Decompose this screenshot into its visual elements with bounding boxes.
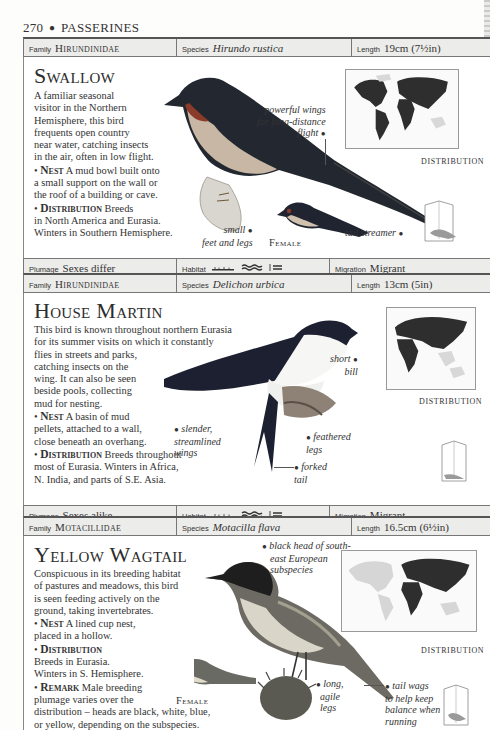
leader-line xyxy=(274,467,294,468)
book-reference-icon xyxy=(442,683,470,727)
distribution-map xyxy=(341,550,477,632)
running-head: 270 ● PASSERINES xyxy=(23,20,139,36)
wetland-icon xyxy=(242,265,262,270)
habitat-icons xyxy=(210,262,290,272)
family-label: Family xyxy=(29,281,51,290)
species-entry-yellow-wagtail: Family Motacillidae Species Motacilla fl… xyxy=(23,516,490,730)
text-line: ● black head of south- xyxy=(262,540,351,553)
family-cell: Family Hirundinidae xyxy=(24,275,177,292)
entry-body: House Martin This bird is known througho… xyxy=(23,293,490,505)
text-line: for long-distance xyxy=(257,116,326,128)
species-value: Motacilla flava xyxy=(213,521,281,533)
callout-wings: ● slender, streamlined wings xyxy=(174,423,221,459)
species-entry-swallow: Family Hirundinidae Species Hirundo rust… xyxy=(23,37,490,278)
text-line: tail wags xyxy=(392,680,428,691)
taxonomy-bar: Family Motacillidae Species Motacilla fl… xyxy=(23,516,490,536)
length-cell: Length 16.5cm (6½in) xyxy=(352,518,490,535)
species-value: Delichon urbica xyxy=(213,278,285,290)
length-value: 19cm (7½in) xyxy=(384,42,441,54)
text-line: Breeds xyxy=(105,203,134,214)
family-cell: Family Hirundinidae xyxy=(24,39,177,56)
text-line: running xyxy=(385,716,440,728)
common-name: House Martin xyxy=(34,298,163,324)
text-line: wings xyxy=(174,447,221,459)
callout-feet: small ● feet and legs xyxy=(202,224,253,248)
common-name: Yellow Wagtail xyxy=(34,542,187,568)
text-line: agile xyxy=(316,691,344,703)
callout-legs: ● feathered legs xyxy=(306,431,351,455)
text-line: ● forked xyxy=(294,461,327,474)
family-value: Hirundinidae xyxy=(55,42,119,54)
text-line: A lined cup nest, xyxy=(66,618,136,629)
callout-tail: tail streamer ● xyxy=(345,227,403,240)
callout-head: ● black head of south- east European sub… xyxy=(262,540,351,576)
text-line: ● feathered xyxy=(306,431,351,444)
species-label: Species xyxy=(182,524,209,533)
female-label: Female xyxy=(176,695,208,706)
text-line: feathered xyxy=(313,431,350,442)
family-value: Motacillidae xyxy=(55,521,121,533)
callout-tail: ● tail wags to help keep balance when ru… xyxy=(385,680,440,727)
callout-legs: ● long, agile legs xyxy=(316,678,344,714)
taxonomy-bar: Family Hirundinidae Species Hirundo rust… xyxy=(23,37,490,57)
distribution-heading: Distribution xyxy=(40,448,102,460)
book-reference-icon xyxy=(440,439,468,483)
nest-heading: Nest xyxy=(40,164,63,176)
text-line: powerful wings xyxy=(257,104,326,116)
callout-tail: ● forked tail xyxy=(294,461,327,485)
distribution-label: DISTRIBUTION xyxy=(419,397,482,406)
length-label: Length xyxy=(357,281,380,290)
text-line: feet and legs xyxy=(202,237,253,249)
distribution-heading: Distribution xyxy=(40,643,102,655)
species-label: Species xyxy=(182,281,209,290)
text-line: legs xyxy=(316,702,344,714)
distribution-map xyxy=(345,69,459,149)
common-name: Swallow xyxy=(34,63,115,89)
entry-body: Yellow Wagtail Conspicuous in its breedi… xyxy=(23,536,490,730)
leader-line xyxy=(364,685,384,686)
text-line: slender, xyxy=(181,423,212,434)
family-label: Family xyxy=(29,524,51,533)
world-map-icon xyxy=(346,70,458,148)
text-line: ● slender, xyxy=(174,423,221,436)
text-line: legs xyxy=(306,444,351,456)
leader-line xyxy=(325,139,326,165)
text-line: streamlined xyxy=(174,436,221,448)
text-line: balance when xyxy=(385,704,440,716)
bullet-separator: ● xyxy=(49,22,55,33)
text-line: flight ● xyxy=(257,127,326,140)
length-value: 13cm (5in) xyxy=(384,278,433,290)
species-cell: Species Motacilla flava xyxy=(177,518,352,535)
species-cell: Species Hirundo rustica xyxy=(177,39,352,56)
species-cell: Species Delichon urbica xyxy=(177,275,352,292)
family-label: Family xyxy=(29,45,51,54)
text-line: ● long, xyxy=(316,678,344,691)
callout-bill: short ● bill xyxy=(330,353,358,377)
length-label: Length xyxy=(357,45,380,54)
freshwater-icon xyxy=(270,264,282,271)
entry-body: Swallow A familiar seasonal visitor in t… xyxy=(23,57,490,258)
length-cell: Length 13cm (5in) xyxy=(352,275,490,292)
family-cell: Family Motacillidae xyxy=(24,518,177,535)
text-line: to help keep xyxy=(385,693,440,705)
text-line: A basin of mud xyxy=(66,411,130,422)
distribution-label: DISTRIBUTION xyxy=(421,157,484,166)
distribution-label: DISTRIBUTION xyxy=(421,646,484,655)
grassland-icon xyxy=(212,267,234,271)
text-line: Male breeding xyxy=(82,682,142,693)
species-label: Species xyxy=(182,45,209,54)
callout-wings: powerful wings for long-distance flight … xyxy=(257,104,326,140)
text-line: east European xyxy=(262,553,351,565)
text-line: A mud bowl built onto xyxy=(66,165,160,176)
text-line: tail xyxy=(294,474,327,486)
world-map-icon xyxy=(342,551,476,631)
text-line: ● tail wags xyxy=(385,680,440,693)
book-reference-icon xyxy=(422,199,456,243)
text-line: black head of south- xyxy=(269,540,350,551)
text-line: short ● xyxy=(330,353,358,366)
length-cell: Length 19cm (7½in) xyxy=(352,39,490,56)
page-number: 270 xyxy=(23,20,43,35)
nest-heading: Nest xyxy=(40,617,63,629)
text-line: short xyxy=(330,353,351,364)
species-entry-house-martin: Family Hirundinidae Species Delichon urb… xyxy=(23,273,490,525)
